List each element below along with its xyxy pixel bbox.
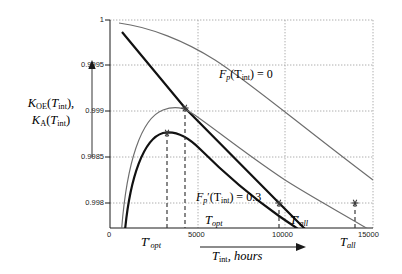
x-axis-title: Tint, hours <box>212 250 262 265</box>
y-tick-label-1: 1 <box>76 16 104 24</box>
y-axis-title-line2: KA(Tint) <box>8 112 94 129</box>
y-axis-title: KOE(Tint), KA(Tint) <box>8 95 94 130</box>
y-axis-title-line1: KOE(Tint), <box>8 95 94 112</box>
curve-koe-fp0 <box>119 23 373 180</box>
y-tick-marks <box>105 20 110 203</box>
marker-label-topt: Topt <box>205 214 223 229</box>
curve-koe-fp03 <box>121 108 373 238</box>
y-tick-label-0998: 0.998 <box>70 199 104 207</box>
y-tick-label-09985: 0.9985 <box>66 153 104 161</box>
annotation-fp-prime: Fp′(Tint) = 0.3 <box>196 191 261 205</box>
x-tick-label-0: 0 <box>107 231 111 239</box>
marker-label-tall-prime: T′all <box>290 214 308 229</box>
y-tick-label-09995: 0.9995 <box>66 61 104 69</box>
chart-figure: 1 0.9995 0.999 0.9985 0.998 0 5000 10000… <box>0 0 402 274</box>
x-tick-label-5000: 5000 <box>188 231 205 239</box>
marker-label-topt-prime: T′opt <box>141 236 161 251</box>
x-tick-label-10000: 10000 <box>272 231 293 239</box>
x-tick-label-15000: 15000 <box>358 231 379 239</box>
marker-drop-lines <box>167 108 355 228</box>
marker-label-tall: Tall <box>340 236 356 251</box>
annotation-fp-zero: Fp(Tint) = 0 <box>219 68 273 82</box>
